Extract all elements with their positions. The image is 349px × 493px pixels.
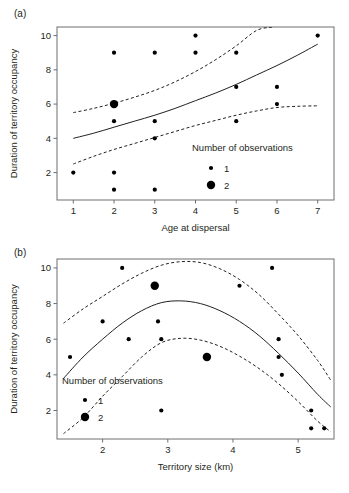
data-point (316, 33, 320, 37)
legend-title: Number of observations (62, 375, 163, 386)
data-point (275, 85, 279, 89)
legend-marker-1 (83, 398, 87, 402)
y-axis-tick-label: 6 (46, 98, 51, 109)
points-group (68, 266, 326, 431)
data-point (101, 319, 105, 323)
data-point (275, 102, 279, 106)
data-point (159, 337, 163, 341)
panel-letter-label: (a) (14, 8, 26, 19)
x-axis-title: Territory size (km) (158, 461, 233, 472)
x-axis-tick-label: 4 (230, 444, 235, 455)
panel-b: (b)2468102345Territory size (km)Duration… (0, 243, 349, 493)
curve-fit (64, 301, 331, 407)
data-point (234, 51, 238, 55)
x-axis-title: Age at dispersal (161, 222, 229, 233)
data-point (153, 51, 157, 55)
curve-lower_confidence (73, 106, 317, 164)
panel-a-plot: (a)2468101234567Age at dispersalDuration… (0, 0, 349, 243)
data-point (153, 119, 157, 123)
data-point (309, 408, 313, 412)
data-point (120, 266, 124, 270)
x-axis-tick-label: 3 (165, 444, 170, 455)
x-axis-tick-label: 6 (274, 205, 279, 216)
y-axis-tick-label: 8 (46, 64, 51, 75)
figure-container: (a)2468101234567Age at dispersalDuration… (0, 0, 349, 493)
data-point (159, 408, 163, 412)
data-point (68, 355, 72, 359)
y-axis-tick-label: 10 (40, 262, 51, 273)
y-axis-tick-label: 10 (40, 30, 51, 41)
legend-title: Number of observations (192, 142, 293, 153)
x-axis-tick-label: 5 (296, 444, 301, 455)
legend-marker-1 (209, 166, 213, 170)
data-point (234, 119, 238, 123)
x-axis-tick-label: 1 (71, 205, 76, 216)
y-axis-tick-label: 8 (46, 298, 51, 309)
panel-a: (a)2468101234567Age at dispersalDuration… (0, 0, 349, 243)
y-axis-tick-label: 6 (46, 334, 51, 345)
data-point (153, 188, 157, 192)
data-point (280, 373, 284, 377)
data-point (270, 266, 274, 270)
data-point (156, 319, 160, 323)
data-point (277, 355, 281, 359)
data-point (153, 136, 157, 140)
y-axis-tick-label: 4 (46, 369, 51, 380)
legend-item-label: 1 (98, 395, 103, 406)
panel-b-plot: (b)2468102345Territory size (km)Duration… (0, 243, 349, 493)
data-point (193, 51, 197, 55)
data-point (127, 337, 131, 341)
legend-marker-2 (207, 181, 215, 189)
data-point (277, 337, 281, 341)
legend-item-label: 2 (98, 412, 103, 423)
x-axis-tick-label: 5 (234, 205, 239, 216)
y-axis-tick-label: 4 (46, 133, 51, 144)
data-point (322, 426, 326, 430)
curves-group (64, 261, 331, 433)
y-axis-title: Duration of territory occupancy (8, 284, 19, 414)
data-point (112, 51, 116, 55)
data-point (237, 284, 241, 288)
panel-letter-label: (b) (14, 247, 26, 258)
data-point (309, 426, 313, 430)
y-axis-tick-label: 2 (46, 167, 51, 178)
x-axis-tick-label: 3 (152, 205, 157, 216)
data-point (193, 33, 197, 37)
y-axis-tick-label: 2 (46, 405, 51, 416)
data-point (234, 85, 238, 89)
data-point (203, 353, 211, 361)
data-point (151, 282, 159, 290)
data-point (71, 170, 75, 174)
points-group (71, 33, 320, 191)
data-point (112, 119, 116, 123)
x-axis-tick-label: 2 (111, 205, 116, 216)
data-point (112, 170, 116, 174)
x-axis-tick-label: 2 (100, 444, 105, 455)
legend-marker-2 (81, 413, 89, 421)
data-point (110, 100, 118, 108)
curve-fit (73, 44, 317, 138)
legend-item-label: 1 (224, 163, 229, 174)
legend-item-label: 2 (224, 180, 229, 191)
y-axis-title: Duration of territory occupancy (8, 49, 19, 179)
data-point (112, 188, 116, 192)
curve-upper_confidence (73, 27, 273, 113)
x-axis-tick-label: 4 (193, 205, 198, 216)
x-axis-tick-label: 7 (315, 205, 320, 216)
